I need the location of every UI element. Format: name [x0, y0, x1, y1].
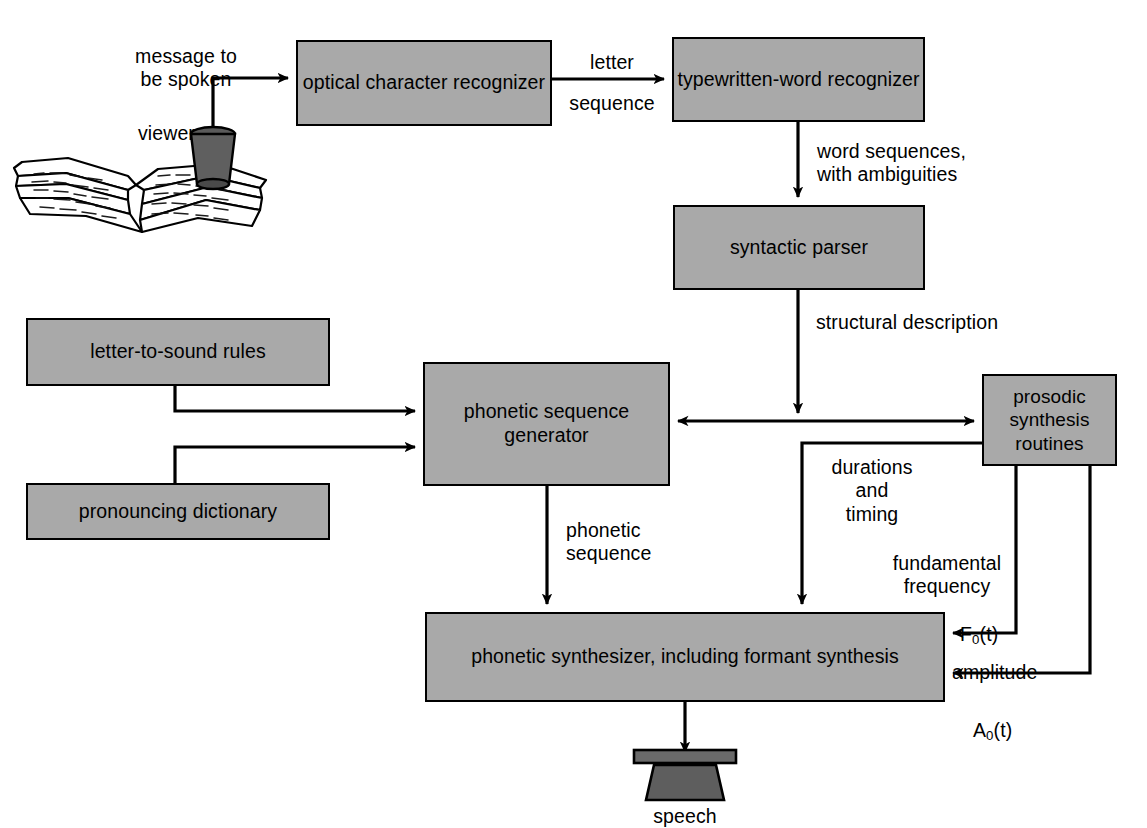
box-optical-character-recognizer[interactable]: optical character recognizer: [296, 40, 552, 126]
f0-argument: (t): [980, 623, 999, 645]
box-phonetic-sequence-generator[interactable]: phonetic sequence generator: [423, 362, 670, 486]
wire-letter-rules-to-generator: [175, 386, 415, 411]
label-phonetic-sequence: phonetic sequence: [566, 519, 651, 566]
box-letter-to-sound-rules[interactable]: letter-to-sound rules: [26, 318, 330, 386]
box-label-dictionary: pronouncing dictionary: [79, 500, 277, 524]
box-phonetic-synthesizer[interactable]: phonetic synthesizer, including formant …: [425, 612, 945, 702]
box-label-prosodic: prosodic synthesis routines: [984, 385, 1115, 455]
wire-dictionary-to-generator: [175, 447, 415, 483]
label-amplitude: amplitude: [952, 661, 1037, 684]
box-syntactic-parser[interactable]: syntactic parser: [673, 205, 925, 290]
a0-subscript: 0: [986, 728, 993, 743]
label-viewer: viewer: [138, 122, 195, 145]
box-label-synthesizer: phonetic synthesizer, including formant …: [471, 645, 899, 669]
label-durations-and-timing: durations and timing: [812, 456, 932, 526]
box-label-word-recognizer: typewritten-word recognizer: [677, 68, 919, 92]
a0-argument: (t): [994, 719, 1013, 741]
box-label-parser: syntactic parser: [730, 236, 868, 260]
box-label-phonetic-generator: phonetic sequence generator: [425, 400, 668, 448]
box-prosodic-synthesis-routines[interactable]: prosodic synthesis routines: [982, 374, 1117, 466]
box-typewritten-word-recognizer[interactable]: typewritten-word recognizer: [672, 37, 925, 122]
box-label-letter-rules: letter-to-sound rules: [90, 340, 266, 364]
a0-symbol: A: [973, 719, 986, 741]
label-letter-sequence: letter sequence: [556, 52, 668, 113]
label-fundamental-frequency: fundamental frequency: [880, 552, 1014, 599]
f0-symbol: F: [960, 623, 972, 645]
box-pronouncing-dictionary[interactable]: pronouncing dictionary: [26, 483, 330, 540]
label-speech: speech: [628, 805, 742, 828]
loudspeaker-icon: [624, 748, 746, 808]
label-structural-description: structural description: [816, 311, 998, 334]
box-label-ocr: optical character recognizer: [303, 71, 545, 95]
label-message-to-be-spoken: message to be spoken: [96, 45, 276, 92]
label-a0-of-t: A0(t): [952, 696, 1012, 768]
diagram-canvas: optical character recognizer typewritten…: [0, 0, 1147, 828]
open-book-illustration: [8, 128, 278, 268]
label-word-sequences-with-ambiguities: word sequences, with ambiguities: [817, 140, 966, 187]
f0-subscript: 0: [972, 632, 979, 647]
